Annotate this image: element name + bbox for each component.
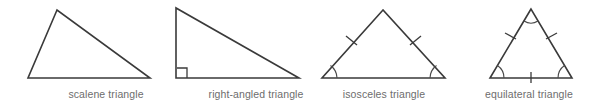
isosceles-triangle-shape: [322, 10, 445, 78]
angle-arc-apex: [524, 21, 538, 23]
angle-arc-left: [498, 66, 505, 79]
right-angled-triangle-shape: [176, 8, 299, 78]
triangle-types-figure: scalene triangle right-angled triangle i…: [0, 0, 599, 111]
right-angle-marker: [177, 68, 187, 78]
label-equilateral-triangle: equilateral triangle: [439, 88, 599, 100]
equilateral-triangle-shape: [490, 9, 572, 83]
scalene-triangle-shape: [28, 10, 150, 78]
angle-arc-right: [558, 66, 565, 79]
